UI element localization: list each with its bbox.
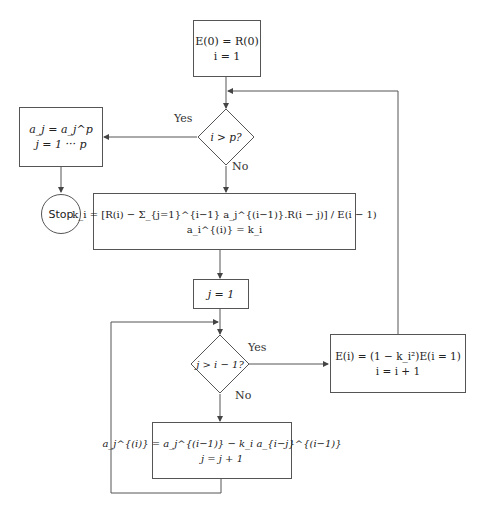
update-coef-line-2: j = j + 1 [201,451,243,466]
reflection-coefficient-box: k_i = [R(i) − Σ_{j=1}^{i−1} a_j^{(i−1)}.… [93,193,356,250]
init-box: E(0) = R(0) i = 1 [193,20,261,77]
j-init-label: j = 1 [208,287,235,302]
yes-label-1: Yes [174,112,192,125]
init-line-2: i = 1 [214,49,241,64]
j-init-box: j = 1 [193,279,249,309]
final-line-1: a_j = a_j^p [29,122,92,137]
stop-label: Stop [48,208,73,221]
update-error-line-1: E(i) = (1 − k_i²)E(i = 1) [335,349,461,364]
update-error-box: E(i) = (1 − k_i²)E(i = 1) i = i + 1 [330,334,466,393]
reflection-line-1: k_i = [R(i) − Σ_{j=1}^{i−1} a_j^{(i−1)}.… [72,207,377,222]
no-label-2: No [235,389,251,402]
yes-label-2: Yes [248,341,266,354]
decision-i-text: i > p? [210,131,241,143]
decision-j-text: j > i − 1? [196,359,244,370]
update-error-line-2: i = i + 1 [376,364,420,379]
final-line-2: j = 1 ··· p [35,137,86,152]
update-coefficient-box: a_j^{(i)} = a_j^{(i−1)} − k_i a_{i−j}^{(… [152,422,292,479]
reflection-line-2: a_i^{(i)} = k_i [187,222,262,237]
final-coefficients-box: a_j = a_j^p j = 1 ··· p [19,107,103,167]
init-line-1: E(0) = R(0) [195,34,259,49]
no-label-1: No [232,160,248,173]
update-coef-line-1: a_j^{(i)} = a_j^{(i−1)} − k_i a_{i−j}^{(… [102,436,341,451]
